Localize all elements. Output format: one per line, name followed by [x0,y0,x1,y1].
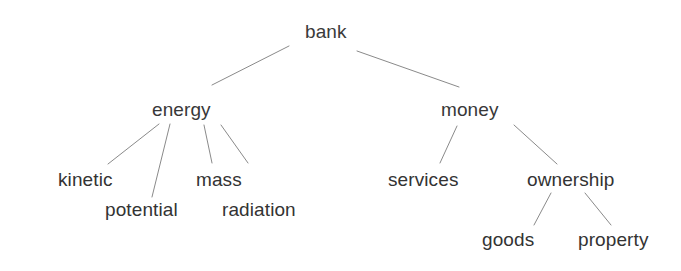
tree-edge-bank-money [357,51,459,87]
tree-node-kinetic[interactable]: kinetic [58,170,113,190]
tree-edge-ownership-property [585,193,611,225]
tree-edge-energy-kinetic [108,124,159,164]
tree-node-goods[interactable]: goods [482,230,534,250]
tree-node-services[interactable]: services [388,170,458,190]
tree-edge-energy-radiation [221,125,248,163]
tree-node-mass[interactable]: mass [196,170,242,190]
tree-edge-money-ownership [514,125,557,164]
tree-edge-bank-energy [212,46,289,85]
tree-node-ownership[interactable]: ownership [527,170,615,190]
tree-edge-ownership-goods [534,193,551,225]
tree-node-bank[interactable]: bank [305,22,347,42]
tree-node-money[interactable]: money [441,100,499,120]
tree-node-property[interactable]: property [578,230,649,250]
tree-edge-energy-potential [152,124,170,197]
tree-edge-money-services [440,126,457,163]
tree-diagram: bank energy money kinetic potential mass… [0,0,681,271]
tree-node-radiation[interactable]: radiation [222,200,296,220]
tree-edge-energy-mass [204,125,212,163]
edge-group [108,46,611,225]
tree-node-energy[interactable]: energy [152,100,211,120]
tree-node-potential[interactable]: potential [105,200,178,220]
